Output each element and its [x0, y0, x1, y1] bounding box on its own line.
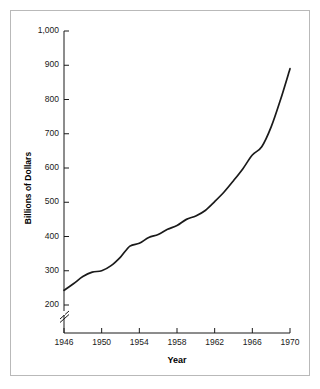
- y-tick-label: 1,000: [10, 25, 59, 35]
- x-tick-label: 1970: [272, 337, 308, 347]
- x-tick-label: 1958: [159, 337, 195, 347]
- y-tick-label: 300: [10, 265, 59, 275]
- axes: [64, 31, 290, 333]
- y-tick-label: 600: [10, 162, 59, 172]
- chart-figure: 2003004005006007008009001,000 1946195019…: [0, 0, 320, 389]
- x-axis-title: Year: [64, 355, 290, 365]
- y-tick-label: 800: [10, 94, 59, 104]
- x-tick-label: 1954: [121, 337, 157, 347]
- y-tick-label: 400: [10, 231, 59, 241]
- x-tick-label: 1962: [197, 337, 233, 347]
- x-tick-label: 1966: [234, 337, 270, 347]
- y-axis-ticks: [64, 31, 69, 305]
- y-tick-label: 900: [10, 59, 59, 69]
- y-tick-label: 200: [10, 299, 59, 309]
- data-series-line: [64, 69, 290, 291]
- y-tick-label: 700: [10, 128, 59, 138]
- y-axis-title: Billions of Dollars: [23, 133, 33, 243]
- x-tick-label: 1950: [84, 337, 120, 347]
- x-axis-ticks: [64, 328, 290, 333]
- x-tick-label: 1946: [46, 337, 82, 347]
- y-tick-label: 500: [10, 196, 59, 206]
